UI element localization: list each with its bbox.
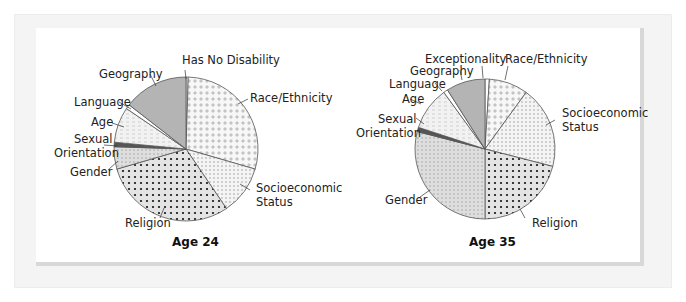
label-race-ethnicity: Race/Ethnicity <box>250 91 333 105</box>
label-orientation: Orientation <box>356 126 421 140</box>
label-status: Status <box>256 195 293 209</box>
label-status: Status <box>562 120 599 134</box>
label-socioeconomic: Socioeconomic <box>256 181 342 195</box>
label-language: Language <box>389 77 446 91</box>
label-religion: Religion <box>125 216 171 230</box>
label-gender: Gender <box>385 193 428 207</box>
label-language: Language <box>74 95 131 109</box>
chart-title-age-35: Age 35 <box>469 235 516 249</box>
pie-charts-figure: Has No Disability Race/Ethnicity Socioec… <box>0 0 686 302</box>
label-geography: Geography <box>410 64 474 78</box>
label-race-ethnicity: Race/Ethnicity <box>505 52 588 66</box>
chart-title-age-24: Age 24 <box>172 235 219 249</box>
label-age: Age <box>91 115 113 129</box>
label-sexual: Sexual <box>74 132 113 146</box>
label-gender: Gender <box>70 165 113 179</box>
pie-chart-age-35 <box>415 79 555 219</box>
label-orientation: Orientation <box>54 146 119 160</box>
label-age: Age <box>402 92 424 106</box>
pie-chart-age-24 <box>114 77 258 221</box>
label-religion: Religion <box>532 216 578 230</box>
label-sexual: Sexual <box>378 112 417 126</box>
label-socioeconomic: Socioeconomic <box>562 106 648 120</box>
label-geography: Geography <box>99 67 163 81</box>
label-has-no-disability: Has No Disability <box>182 53 280 67</box>
